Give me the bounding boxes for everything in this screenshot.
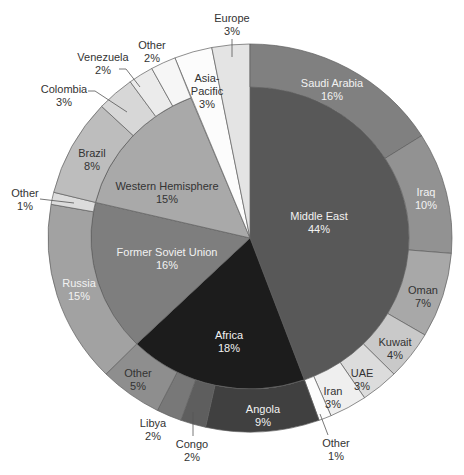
slice-name: Oman (408, 284, 438, 296)
slice-percent: 4% (387, 349, 403, 361)
slice-name: UAE (351, 367, 374, 379)
label-former-soviet-union-other: Other1% (11, 187, 39, 212)
slice-name: Kuwait (378, 336, 411, 348)
slice-name: Other (138, 39, 166, 51)
slice-percent: 10% (415, 199, 437, 211)
slice-name: Middle East (290, 210, 347, 222)
slice-name: Congo (176, 438, 208, 450)
slice-name: Other (11, 187, 39, 199)
slice-name: Asia- (194, 72, 219, 84)
slice-percent: 3% (199, 98, 215, 110)
slice-percent: 8% (84, 160, 100, 172)
slice-name: Angola (246, 403, 281, 415)
slice-percent: 3% (56, 96, 72, 108)
label-middle-east-iran: Iran3% (324, 385, 343, 410)
label-middle-east-other: Other1% (322, 437, 350, 462)
label-western-hemisphere-colombia: Colombia3% (41, 83, 88, 108)
slice-percent: 5% (130, 380, 146, 392)
slice-percent: 18% (218, 342, 240, 354)
slice-name: Iran (324, 385, 343, 397)
label-middle-east-iraq: Iraq10% (415, 186, 437, 211)
slices-layer (48, 44, 452, 432)
slice-name: Former Soviet Union (117, 246, 218, 258)
sunburst-chart: Middle East44%Africa18%Former Soviet Uni… (0, 0, 464, 475)
slice-percent: 15% (156, 193, 178, 205)
slice-percent: 2% (184, 451, 200, 463)
slice-percent: 1% (17, 200, 33, 212)
slice-percent: 2% (144, 52, 160, 64)
slice-name: Other (322, 437, 350, 449)
slice-name: Russia (62, 277, 97, 289)
label-middle-east-uae: UAE3% (351, 367, 374, 392)
label-europe: Europe3% (214, 12, 249, 37)
slice-name: Colombia (41, 83, 88, 95)
slice-percent: 3% (354, 380, 370, 392)
slice-percent: 16% (156, 259, 178, 271)
slice-name: Libya (140, 417, 167, 429)
slice-name: Africa (215, 329, 244, 341)
slice-percent: 15% (68, 290, 90, 302)
slice-name: Venezuela (77, 51, 129, 63)
label-western-hemisphere-other: Other2% (138, 39, 166, 64)
slice-percent: 7% (415, 297, 431, 309)
slice-name: Pacific (191, 85, 224, 97)
slice-name: Europe (214, 12, 249, 24)
slice-name: Western Hemisphere (115, 180, 218, 192)
slice-percent: 3% (325, 398, 341, 410)
slice-percent: 1% (328, 450, 344, 462)
slice-name: Brazil (78, 147, 106, 159)
label-africa-congo: Congo2% (176, 438, 208, 463)
slice-name: Saudi Arabia (301, 77, 364, 89)
slice-percent: 2% (145, 430, 161, 442)
label-africa: Africa18% (215, 329, 244, 354)
label-africa-libya: Libya2% (140, 417, 167, 442)
slice-percent: 16% (321, 90, 343, 102)
label-western-hemisphere-venezuela: Venezuela2% (77, 51, 129, 76)
slice-percent: 3% (224, 25, 240, 37)
slice-name: Iraq (417, 186, 436, 198)
slice-percent: 2% (95, 64, 111, 76)
slice-name: Other (124, 367, 152, 379)
slice-percent: 44% (308, 223, 330, 235)
chart-canvas: Middle East44%Africa18%Former Soviet Uni… (0, 0, 464, 475)
slice-percent: 9% (255, 416, 271, 428)
